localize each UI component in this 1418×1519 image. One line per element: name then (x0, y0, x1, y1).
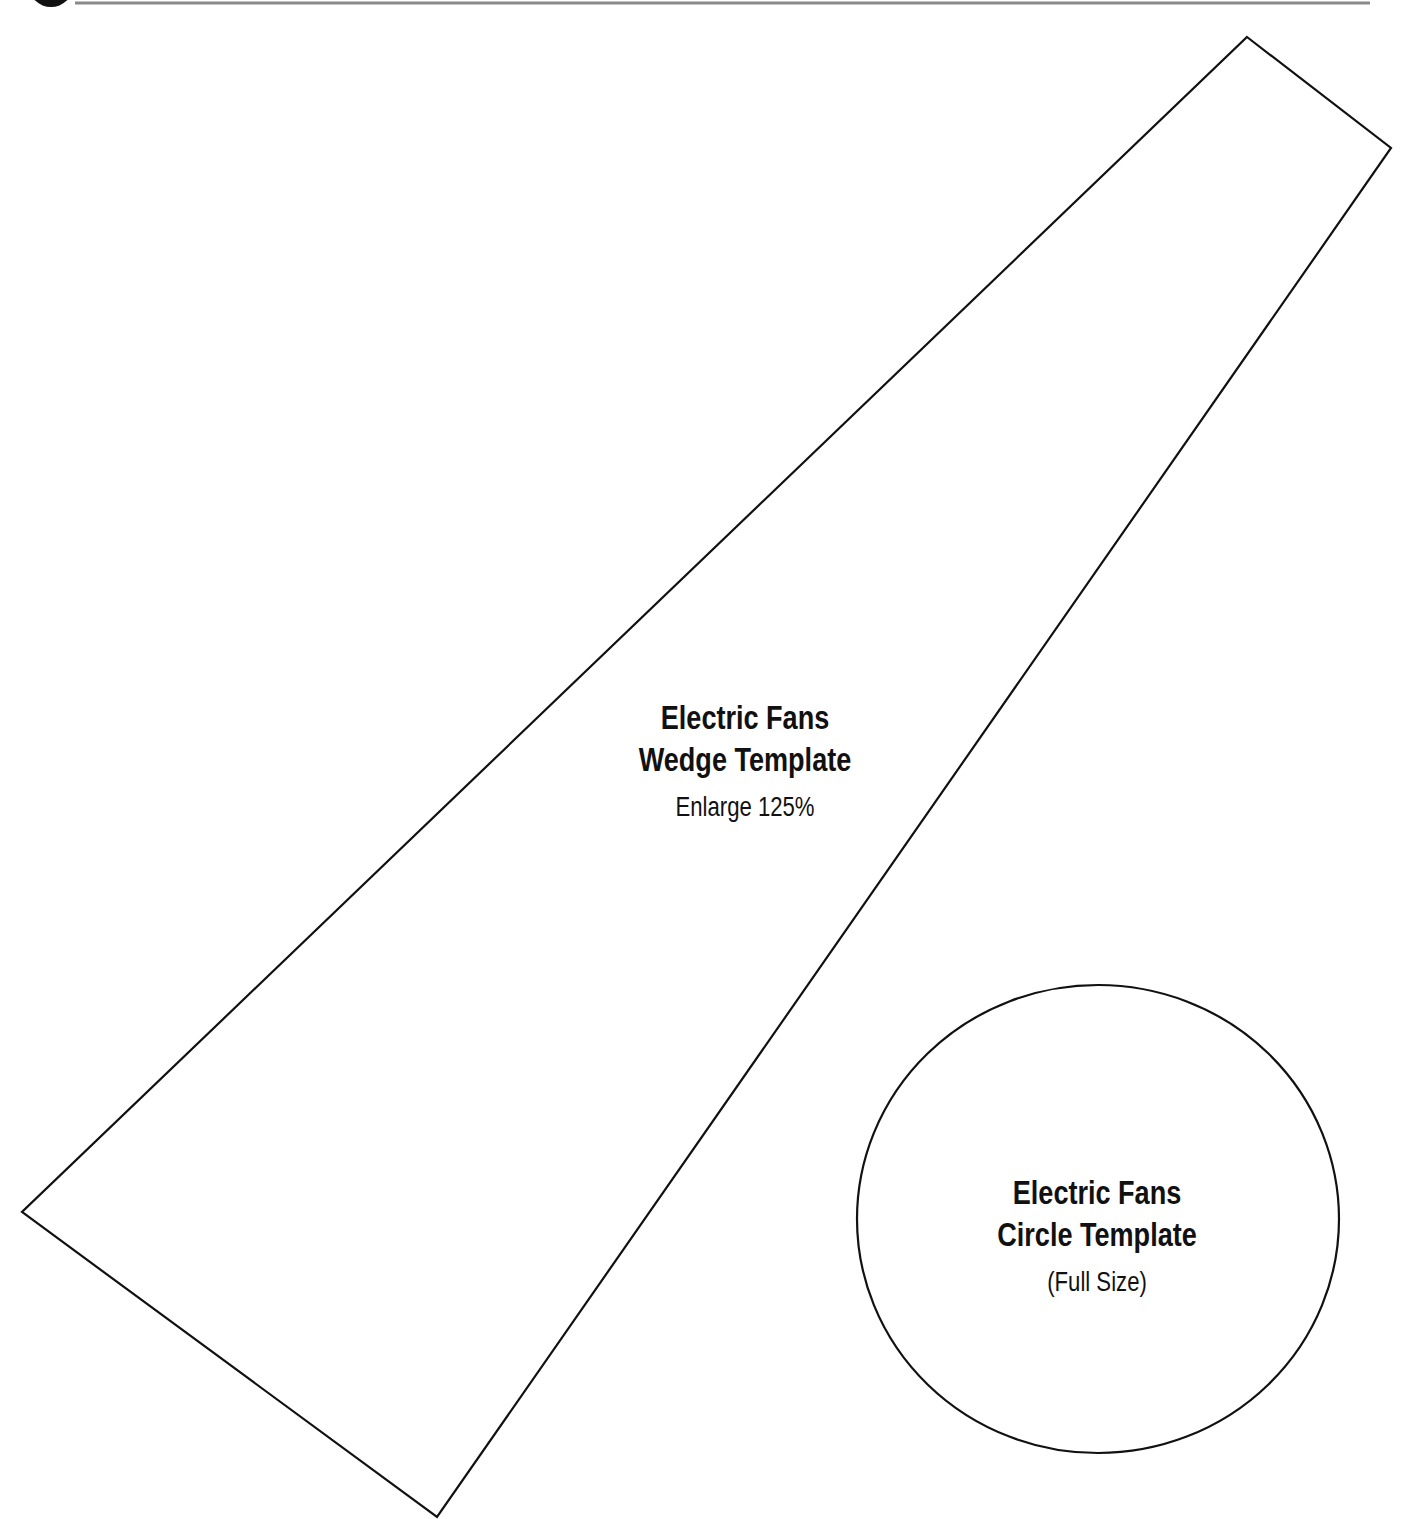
wedge-title-line1: Electric Fans (581, 697, 909, 739)
black-circle-marker-icon (29, 0, 73, 7)
template-page: Electric Fans Wedge Template Enlarge 125… (0, 0, 1418, 1519)
circle-template-label: Electric Fans Circle Template (Full Size… (933, 1172, 1261, 1300)
circle-title-line2: Circle Template (933, 1214, 1261, 1256)
wedge-template-label: Electric Fans Wedge Template Enlarge 125… (581, 697, 909, 825)
wedge-title-line2: Wedge Template (581, 739, 909, 781)
circle-title-line1: Electric Fans (933, 1172, 1261, 1214)
circle-note: (Full Size) (933, 1264, 1261, 1300)
wedge-note: Enlarge 125% (581, 789, 909, 825)
